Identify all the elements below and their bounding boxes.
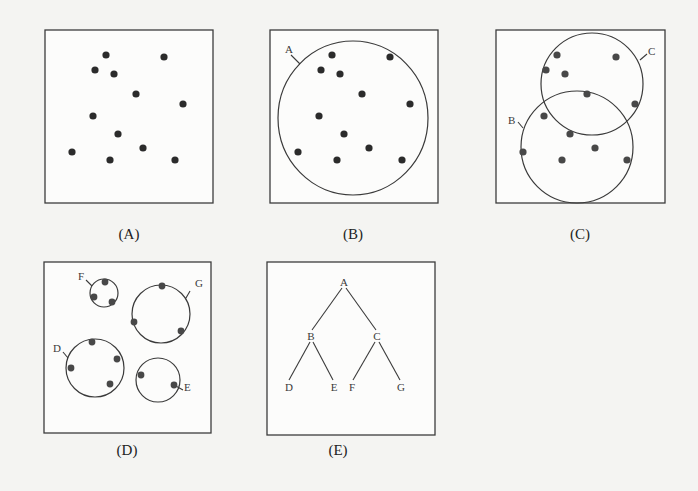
cluster-e-label: E [184,381,191,393]
cluster-g-label: G [195,277,203,289]
panel-a: (A) [45,30,213,243]
panel-b-caption: (B) [343,226,363,243]
panel-b: A (B) [270,30,438,243]
cluster-b-label: B [508,114,515,126]
panel-e-frame [267,262,435,435]
cluster-f-label: F [78,270,84,282]
tree-node-f: F [349,381,355,393]
panel-c-caption: (C) [570,226,590,243]
panel-e-caption: (E) [328,442,347,459]
cluster-a-label: A [285,43,293,55]
tree-node-a: A [340,276,348,288]
tree-node-b: B [307,330,314,342]
cluster-d-label: D [53,342,61,354]
panel-e: A B C D E F G (E) [267,262,435,459]
panel-d: F G D E (D) [44,262,211,459]
tree-node-d: D [285,381,293,393]
tree-node-g: G [397,381,405,393]
panel-b-frame [270,30,438,203]
panel-a-frame [45,30,213,203]
panel-c: C B (C) [496,30,665,243]
tree-node-c: C [373,330,380,342]
panel-a-caption: (A) [119,226,140,243]
cluster-c-label: C [648,45,655,57]
panel-c-frame [496,30,665,203]
clustering-figure: (A) A (B) C B [0,0,698,491]
panel-d-caption: (D) [117,442,138,459]
panel-d-frame [44,262,211,433]
tree-node-e: E [331,381,338,393]
